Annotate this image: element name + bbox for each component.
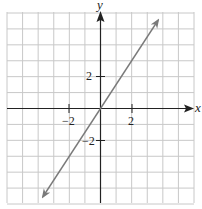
y-axis-label: y <box>95 0 103 12</box>
x-tick-label-neg2: −2 <box>62 114 75 128</box>
x-tick-label-pos2: 2 <box>128 114 134 128</box>
y-tick-label-neg2: −2 <box>82 134 95 148</box>
coordinate-plane: −2 2 2 −2 x y <box>0 0 202 209</box>
x-axis-label: x <box>194 100 201 115</box>
y-tick-label-pos2: 2 <box>86 69 92 83</box>
